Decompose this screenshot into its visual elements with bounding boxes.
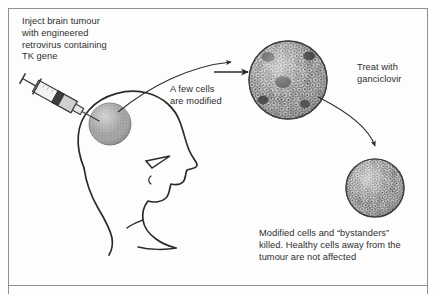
caption-cutoff (22, 286, 322, 294)
figure-container: Inject brain tumour with engineered retr… (0, 0, 440, 294)
label-treat-step: Treat with ganciclovir (357, 62, 435, 86)
arrow-curve-down-icon (318, 97, 375, 146)
label-inject-step: Inject brain tumour with engineered retr… (22, 16, 172, 63)
tumour-mass-icon (89, 103, 131, 145)
label-killed-step: Modified cells and “bystanders” killed. … (259, 228, 435, 263)
ear-icon (146, 156, 170, 184)
tumour-cells-killed-icon (342, 154, 407, 221)
label-modified-step: A few cells are modified (170, 84, 256, 108)
tumour-cells-modified-icon (244, 38, 333, 123)
